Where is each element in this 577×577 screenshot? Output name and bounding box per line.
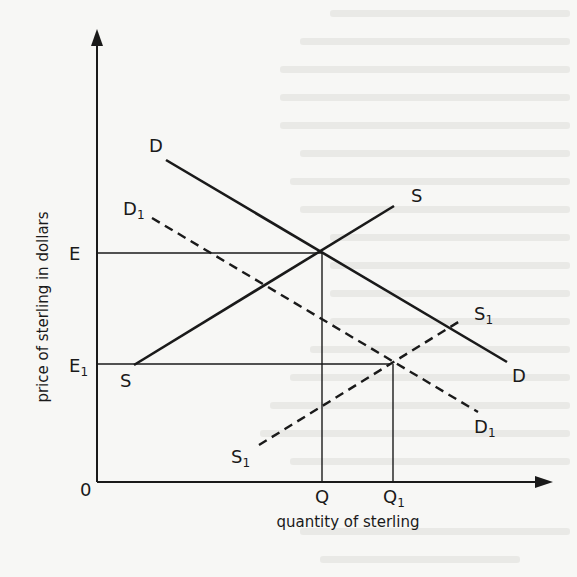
- curve-label-D1-top: D1: [123, 198, 145, 222]
- quantity-label-Q: Q: [315, 486, 329, 507]
- curve-label-S1-bottom: S1: [231, 446, 250, 470]
- y-axis-title: price of sterling in dollars: [34, 211, 52, 402]
- x-axis-arrow-icon: [535, 476, 553, 488]
- curve-label-S1-bottom-main: S: [231, 446, 242, 467]
- supply-demand-diagram: 0 E E1 Q Q1 D D D1 D1 S S S1 S1: [0, 0, 577, 577]
- curve-label-D1-top-main: D: [123, 198, 137, 219]
- curve-label-S1-top: S1: [474, 303, 493, 327]
- curve-label-D1-bottom-sub: 1: [488, 426, 496, 440]
- price-label-E1-main: E: [69, 355, 80, 376]
- y-axis-arrow-icon: [91, 29, 103, 46]
- price-label-E1-sub: 1: [80, 365, 88, 379]
- curve-label-S1-bottom-sub: 1: [242, 456, 250, 470]
- supply-curve-S: [134, 206, 394, 365]
- guide-lines: [97, 253, 393, 482]
- curve-label-D1-bottom: D1: [474, 416, 496, 440]
- curve-label-S-bottom: S: [120, 370, 131, 391]
- curve-label-D-top: D: [149, 135, 163, 156]
- curves: [134, 160, 507, 445]
- quantity-label-Q1: Q1: [383, 486, 405, 510]
- curve-label-S1-top-sub: 1: [485, 313, 493, 327]
- quantity-label-Q1-sub: 1: [397, 496, 405, 510]
- quantity-label-Q1-main: Q: [383, 486, 397, 507]
- x-axis-title: quantity of sterling: [277, 513, 420, 531]
- origin-label: 0: [80, 479, 91, 500]
- price-label-E1: E1: [69, 355, 88, 379]
- curve-label-S-top: S: [411, 185, 422, 206]
- price-label-E: E: [69, 243, 80, 264]
- curve-label-S1-top-main: S: [474, 303, 485, 324]
- curve-label-D-bottom: D: [512, 365, 526, 386]
- textbook-page: 0 E E1 Q Q1 D D D1 D1 S S S1 S1: [0, 0, 577, 577]
- curve-label-D1-top-sub: 1: [137, 208, 145, 222]
- labels: 0 E E1 Q Q1 D D D1 D1 S S S1 S1: [34, 135, 526, 531]
- curve-label-D1-bottom-main: D: [474, 416, 488, 437]
- demand-curve-D: [166, 160, 507, 362]
